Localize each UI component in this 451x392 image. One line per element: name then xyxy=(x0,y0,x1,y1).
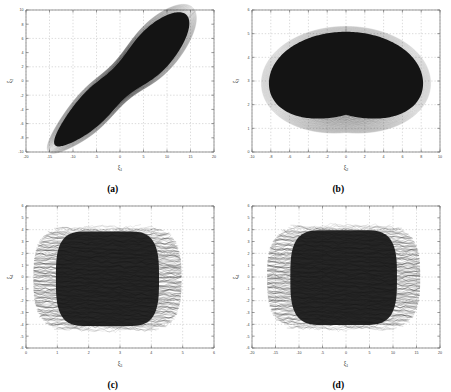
attractor-trace xyxy=(34,225,181,333)
x-tick-label: 0 xyxy=(345,155,347,159)
x-tick-label: 4 xyxy=(382,155,384,159)
x-tick-label: -6 xyxy=(287,155,290,159)
y-tick-label: -3 xyxy=(246,311,249,315)
panel-a: -20-15-10-505101520-10-8-6-4-20246810ξ1ξ… xyxy=(0,0,226,196)
y-tick-label: 3 xyxy=(22,240,24,244)
x-tick-label: -5 xyxy=(95,155,98,159)
attractor-trace xyxy=(47,4,196,153)
x-tick-label: 0 xyxy=(119,155,121,159)
y-tick-label: -6 xyxy=(20,346,23,350)
x-axis-label: ξ2 xyxy=(343,164,348,172)
y-tick-label: 4 xyxy=(247,228,249,232)
y-tick-label: 0 xyxy=(247,275,249,279)
x-tick-label: 5 xyxy=(368,351,370,355)
y-tick-label: -10 xyxy=(18,150,23,154)
x-tick-label: 0 xyxy=(25,351,27,355)
y-tick-label: -2 xyxy=(20,94,23,98)
y-tick-label: -8 xyxy=(20,136,23,140)
x-axis-label: ξ1 xyxy=(118,164,123,172)
plot-area-a: -20-15-10-505101520-10-8-6-4-20246810ξ1ξ… xyxy=(0,0,226,196)
x-tick-label: -15 xyxy=(47,155,52,159)
y-axis-label: ξ2 xyxy=(6,79,14,84)
y-tick-label: 6 xyxy=(247,8,249,12)
x-tick-label: -10 xyxy=(70,155,75,159)
y-tick-label: 1 xyxy=(22,264,24,268)
y-tick-label: -2 xyxy=(20,299,23,303)
y-tick-label: 2 xyxy=(22,252,24,256)
y-axis-label: ξ4 xyxy=(232,275,240,280)
x-tick-label: -20 xyxy=(23,155,28,159)
x-tick-label: 20 xyxy=(438,351,442,355)
plot-area-c: 0123456-6-5-4-3-2-10123456ξ3ξ4 xyxy=(0,196,226,392)
y-tick-label: -5 xyxy=(246,335,249,339)
x-tick-label: 3 xyxy=(119,351,121,355)
panel-d: -20-15-10-505101520-6-5-4-3-2-10123456ξ1… xyxy=(226,196,451,392)
chart-c: 0123456-6-5-4-3-2-10123456ξ3ξ4 xyxy=(0,196,226,392)
y-tick-label: 3 xyxy=(247,240,249,244)
y-tick-label: -4 xyxy=(246,323,249,327)
x-tick-label: 2 xyxy=(363,155,365,159)
x-tick-label: 5 xyxy=(143,155,145,159)
panel-c: 0123456-6-5-4-3-2-10123456ξ3ξ4 (c) xyxy=(0,196,226,392)
y-tick-label: 8 xyxy=(22,23,24,27)
y-tick-label: 4 xyxy=(22,228,24,232)
figure-grid: -20-15-10-505101520-10-8-6-4-20246810ξ1ξ… xyxy=(0,0,451,392)
x-tick-label: 20 xyxy=(212,155,216,159)
chart-d: -20-15-10-505101520-6-5-4-3-2-10123456ξ1… xyxy=(226,196,451,392)
y-tick-label: 0 xyxy=(22,79,24,83)
x-tick-label: 6 xyxy=(213,351,215,355)
y-tick-label: -2 xyxy=(246,299,249,303)
x-axis-label: ξ1 xyxy=(343,360,348,368)
y-tick-label: 0 xyxy=(22,275,24,279)
y-tick-label: 2 xyxy=(247,252,249,256)
x-tick-label: 4 xyxy=(150,351,152,355)
panel-caption-a: (a) xyxy=(0,184,226,194)
y-tick-label: -6 xyxy=(20,122,23,126)
chart-a: -20-15-10-505101520-10-8-6-4-20246810ξ1ξ… xyxy=(0,0,226,196)
y-tick-label: -6 xyxy=(246,346,249,350)
attractor-trace xyxy=(261,26,430,133)
x-tick-label: 5 xyxy=(182,351,184,355)
y-tick-label: -1 xyxy=(20,287,23,291)
x-tick-label: 15 xyxy=(189,155,193,159)
y-tick-label: 5 xyxy=(247,32,249,36)
x-tick-label: -10 xyxy=(249,155,254,159)
x-tick-label: 2 xyxy=(88,351,90,355)
y-tick-label: 2 xyxy=(22,65,24,69)
y-tick-label: 5 xyxy=(247,216,249,220)
y-axis-label: ξ3 xyxy=(232,79,240,84)
plot-area-d: -20-15-10-505101520-6-5-4-3-2-10123456ξ1… xyxy=(226,196,451,392)
panel-caption-b: (b) xyxy=(226,184,451,194)
x-tick-label: -2 xyxy=(325,155,328,159)
panel-caption-c: (c) xyxy=(0,380,226,390)
x-tick-label: -5 xyxy=(320,351,323,355)
y-tick-label: 6 xyxy=(247,204,249,208)
y-tick-label: 1 xyxy=(247,127,249,131)
y-tick-label: 1 xyxy=(247,264,249,268)
y-tick-label: 4 xyxy=(247,56,249,60)
x-tick-label: 10 xyxy=(165,155,169,159)
y-tick-label: -4 xyxy=(20,108,23,112)
y-tick-label: -3 xyxy=(20,311,23,315)
y-tick-label: 3 xyxy=(247,79,249,83)
y-tick-label: 6 xyxy=(22,204,24,208)
x-tick-label: -10 xyxy=(296,351,301,355)
y-tick-label: 5 xyxy=(22,216,24,220)
x-tick-label: 6 xyxy=(401,155,403,159)
x-tick-label: 8 xyxy=(420,155,422,159)
x-tick-label: 0 xyxy=(345,351,347,355)
y-tick-label: 4 xyxy=(22,51,24,55)
plot-area-b: -10-8-6-4-202468100123456ξ2ξ3 xyxy=(226,0,451,196)
attractor-trace xyxy=(267,223,419,331)
x-tick-label: 1 xyxy=(56,351,58,355)
y-tick-label: 0 xyxy=(247,150,249,154)
y-tick-label: -5 xyxy=(20,335,23,339)
x-tick-label: -4 xyxy=(306,155,309,159)
panel-b: -10-8-6-4-202468100123456ξ2ξ3 (b) xyxy=(226,0,451,196)
x-tick-label: -8 xyxy=(269,155,272,159)
x-tick-label: -20 xyxy=(249,351,254,355)
y-tick-label: 6 xyxy=(22,37,24,41)
y-tick-label: -4 xyxy=(20,323,23,327)
y-tick-label: 2 xyxy=(247,103,249,107)
y-tick-label: 10 xyxy=(20,8,24,12)
